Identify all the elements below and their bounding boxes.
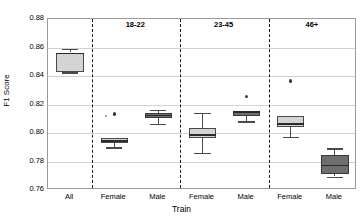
y-axis-tick-label: 0.86 [0,43,44,51]
whisker-cap-lower [62,72,78,73]
group-separator [180,19,181,188]
group-label: 46+ [282,20,342,29]
y-axis-tick-label: 0.84 [0,71,44,79]
whisker-lower [290,127,291,137]
whisker-cap-lower [238,122,254,123]
whisker-cap-upper [327,148,343,149]
gridline [48,105,355,106]
median-line [101,140,128,142]
gridline [48,162,355,163]
x-axis-title: Train [0,204,363,214]
whisker-cap-lower [194,153,210,154]
median-line [233,111,260,113]
box [189,128,216,138]
box [56,53,83,73]
x-axis-tick-label: Male [308,192,360,201]
whisker-upper [202,113,203,128]
median-line [321,165,348,167]
group-label: 23-45 [194,20,254,29]
box [277,116,304,126]
y-axis-tick-label: 0.82 [0,100,44,108]
whisker-lower [202,138,203,154]
gridline [48,76,355,77]
whisker-cap-upper [150,110,166,111]
outlier-point [245,95,248,98]
whisker-lower [158,118,159,124]
whisker-cap-lower [283,137,299,138]
median-line [56,53,83,55]
group-separator [269,19,270,188]
group-separator [92,19,93,188]
boxplot-chart: F1 Score 0.760.780.800.820.840.860.88 18… [0,0,363,223]
y-axis-tick-label: 0.88 [0,14,44,22]
median-line [189,134,216,136]
outlier-point [105,115,107,117]
y-axis-tick-label: 0.78 [0,157,44,165]
whisker-cap-upper [62,49,78,50]
median-line [277,123,304,125]
whisker-cap-upper [194,113,210,114]
plot-area [47,18,356,189]
y-axis-tick-label: 0.80 [0,128,44,136]
y-axis-tick-label: 0.76 [0,185,44,193]
y-axis-title: F1 Score [2,61,11,121]
outlier-point [289,79,292,82]
whisker-cap-lower [327,177,343,178]
gridline [48,48,355,49]
whisker-cap-lower [106,148,122,149]
outlier-point [113,112,116,115]
group-label: 18-22 [105,20,165,29]
whisker-cap-lower [150,124,166,125]
median-line [145,115,172,117]
